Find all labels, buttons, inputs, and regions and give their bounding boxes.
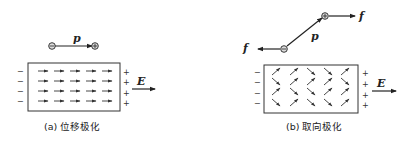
caption-b: (b) 取向极化	[286, 121, 342, 132]
panel-b-orientation-polarization: p f f	[242, 10, 396, 132]
field-label-a: E	[136, 75, 146, 88]
left-surface-charges-a: − − − −	[17, 67, 24, 106]
svg-text:+: +	[362, 80, 369, 89]
electric-field-arrow-b: E	[372, 77, 396, 91]
right-surface-charges-b: + + + +	[362, 69, 369, 110]
svg-text:−: −	[17, 77, 24, 86]
svg-text:−: −	[17, 67, 24, 76]
svg-text:−: −	[254, 68, 261, 77]
dipole-moment-label-b: p	[311, 30, 319, 43]
svg-text:−: −	[17, 97, 24, 106]
svg-text:−: −	[254, 99, 261, 108]
force-label-right: f	[358, 10, 366, 23]
svg-text:+: +	[362, 91, 369, 100]
svg-text:−: −	[17, 87, 24, 96]
caption-a: (a) 位移极化	[44, 121, 100, 132]
dielectric-slab-a	[28, 63, 120, 111]
svg-text:+: +	[123, 99, 130, 108]
field-label-b: E	[376, 77, 386, 90]
svg-text:−: −	[254, 89, 261, 98]
dipole-moment-label: p	[73, 32, 81, 45]
right-surface-charges-a: + + + +	[123, 68, 130, 108]
svg-text:+: +	[123, 89, 130, 98]
dipole-a: p	[49, 32, 99, 49]
force-label-left: f	[242, 42, 250, 55]
left-surface-charges-b: − − − −	[254, 68, 261, 108]
aligned-dipole-arrows	[38, 71, 112, 101]
svg-text:+: +	[362, 69, 369, 78]
svg-text:+: +	[362, 101, 369, 110]
panel-a-displacement-polarization: p −	[17, 32, 155, 132]
electric-field-arrow-a: E	[132, 75, 155, 89]
svg-text:+: +	[123, 68, 130, 77]
svg-text:+: +	[123, 78, 130, 87]
svg-text:−: −	[254, 78, 261, 87]
dipole-b: p f f	[242, 10, 366, 55]
polarization-diagram: p −	[0, 0, 402, 143]
partially-aligned-dipole-arrows	[272, 68, 349, 106]
